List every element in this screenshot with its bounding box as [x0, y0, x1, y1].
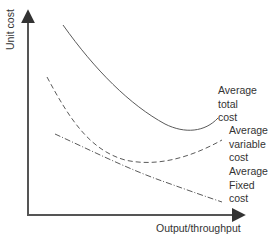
- atc-label-line: cost: [218, 111, 257, 125]
- afc-curve: [55, 134, 222, 202]
- afc-label-line: Fixed: [229, 179, 268, 193]
- afc-label: Average Fixed cost: [229, 165, 268, 206]
- afc-label-line: Average: [229, 165, 268, 179]
- y-axis-label: Unit cost: [4, 9, 16, 50]
- avc-label-line: variable: [229, 138, 268, 152]
- atc-label: Average total cost: [218, 84, 257, 125]
- avc-label: Average variable cost: [229, 124, 268, 165]
- avc-label-line: Average: [229, 124, 268, 138]
- avc-label-line: cost: [229, 151, 268, 165]
- atc-label-line: Average: [218, 84, 257, 98]
- avc-curve: [47, 77, 222, 162]
- atc-label-line: total: [218, 98, 257, 112]
- afc-label-line: cost: [229, 192, 268, 206]
- atc-curve: [63, 25, 218, 130]
- x-axis-label: Output/throughput: [156, 222, 241, 234]
